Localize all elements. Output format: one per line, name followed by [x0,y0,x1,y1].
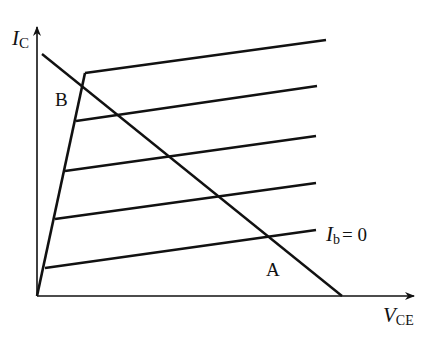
curve-top [85,40,326,73]
curve-3 [65,136,316,171]
load-line [42,54,342,296]
point-a-label: A [266,259,280,280]
curve-4 [76,86,317,121]
point-b-label: B [55,89,68,110]
y-axis-label: IC [11,26,29,51]
curve-2 [55,183,316,219]
x-axis-label: VCE [383,303,414,328]
diagram-canvas: IC VCE B A Ib= 0 [0,0,434,344]
characteristic-diagram: IC VCE B A Ib= 0 [0,0,434,344]
ib-zero-label: Ib= 0 [325,222,367,247]
